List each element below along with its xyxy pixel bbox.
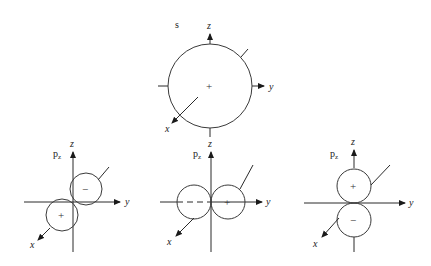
x-axis-back: [240, 165, 253, 189]
lobe-sign: +: [224, 196, 230, 208]
x-axis-label: x: [166, 236, 172, 247]
x-axis-label: x: [312, 238, 318, 249]
y-axis-label: y: [268, 81, 274, 92]
orbital-diagram: s z y + x pz z y − + x pz z: [0, 0, 431, 266]
y-axis-label: y: [124, 196, 130, 207]
x-axis: [322, 218, 339, 237]
x-axis-back: [241, 49, 248, 57]
x-axis: [38, 228, 50, 240]
z-axis-label: z: [206, 20, 211, 31]
panel-label-p: pz: [193, 148, 201, 161]
lobe-sign: +: [58, 209, 64, 221]
panel-label-p: pz: [53, 148, 61, 161]
z-axis-label: z: [69, 138, 74, 149]
z-axis-label: z: [350, 136, 355, 147]
x-axis-back: [371, 165, 390, 185]
z-axis-label: z: [207, 138, 212, 149]
x-axis-label: x: [29, 239, 35, 250]
x-axis-back: [98, 167, 109, 180]
panel-label-p: pz: [330, 148, 338, 161]
panel-label-s: s: [175, 19, 179, 30]
s-orbital-panel: s z y + x: [158, 19, 274, 137]
p-orbital-panel-right: pz z y + − x: [304, 136, 414, 252]
p-orbital-panel-left: pz z y − + x: [24, 138, 130, 252]
lobe-sign: −: [350, 214, 356, 226]
lobe-sign: +: [350, 180, 356, 192]
y-axis-label: y: [408, 197, 414, 208]
y-axis-label: y: [265, 196, 271, 207]
x-axis-label: x: [164, 123, 170, 134]
p-orbital-panel-middle: pz z y + x: [160, 138, 271, 252]
x-axis: [176, 218, 194, 236]
lobe-sign: +: [206, 80, 212, 92]
lobe-sign: −: [82, 183, 88, 195]
